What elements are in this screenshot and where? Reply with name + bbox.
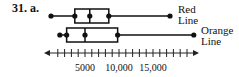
data-point-dot — [167, 13, 172, 18]
data-point-dot — [191, 32, 196, 37]
data-point-dot — [72, 13, 77, 18]
boxplot-red-line — [48, 9, 172, 23]
boxplot-orange-line — [57, 28, 196, 42]
data-point-dot — [57, 32, 62, 37]
data-point-dot — [48, 13, 53, 18]
tick-label: 5000 — [75, 62, 95, 73]
series-label-red-line: Red Line — [178, 4, 198, 26]
axis-arrow-left-icon — [44, 50, 50, 56]
data-point-dot — [82, 32, 87, 37]
series-label-orange-line: Orange Line — [201, 25, 233, 47]
axis-arrow-right-icon — [193, 50, 199, 56]
box — [67, 28, 118, 42]
data-point-dot — [87, 13, 92, 18]
data-point-dot — [106, 13, 111, 18]
tick-label: 10,000 — [105, 62, 133, 73]
data-point-dot — [115, 32, 120, 37]
tick-label: 15,000 — [139, 62, 167, 73]
data-point-dot — [64, 32, 69, 37]
